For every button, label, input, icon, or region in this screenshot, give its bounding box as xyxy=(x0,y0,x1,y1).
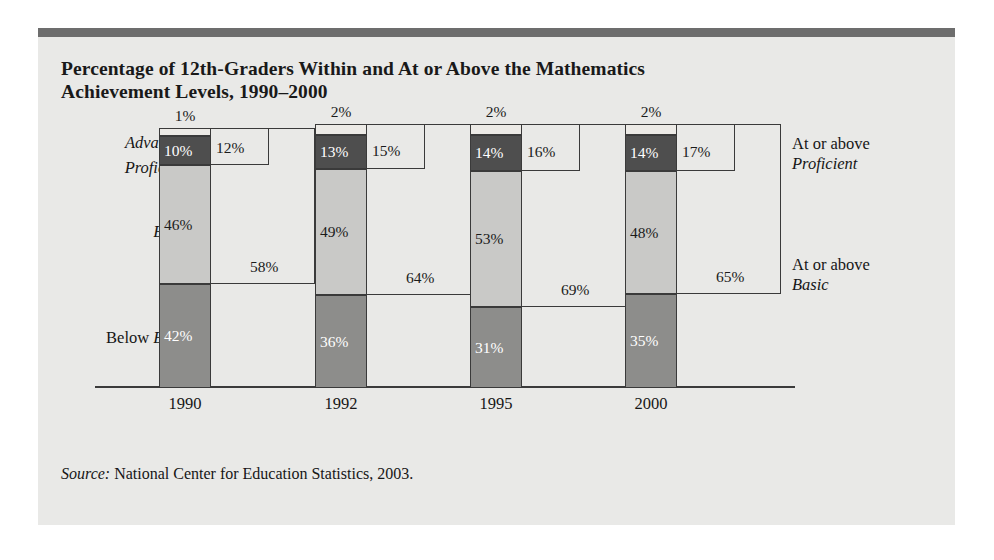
annotation-basic-line2: Basic xyxy=(792,275,870,295)
advanced-value-2000: 2% xyxy=(625,103,677,121)
bar-segment-proficient-1995: 14% xyxy=(470,135,522,171)
bar-value-proficient-1992: 13% xyxy=(316,143,348,161)
bar-segment-advanced-2000 xyxy=(625,124,677,135)
bar-value-basic-1992: 49% xyxy=(316,223,348,241)
bar-segment-advanced-1990 xyxy=(159,128,211,136)
source-text: National Center for Education Statistics… xyxy=(110,465,413,482)
advanced-value-1990: 1% xyxy=(159,107,211,125)
bar-segment-basic-2000: 48% xyxy=(625,171,677,294)
bar-segment-proficient-2000: 14% xyxy=(625,135,677,171)
advanced-value-1995: 2% xyxy=(470,103,522,121)
bar-segment-proficient-1992: 13% xyxy=(315,135,367,169)
bracket-value-basic-2000: 65% xyxy=(716,268,744,286)
bar-segment-below-basic-1992: 36% xyxy=(315,295,367,388)
bracket-basic-1995 xyxy=(522,124,626,307)
bracket-value-basic-1992: 64% xyxy=(406,269,434,287)
category-label-below-prefix: Below xyxy=(106,328,153,347)
bar-segment-basic-1992: 49% xyxy=(315,169,367,295)
bar-segment-basic-1990: 46% xyxy=(159,165,211,284)
figure-stage: Percentage of 12th-Graders Within and At… xyxy=(0,0,994,560)
bar-value-proficient-2000: 14% xyxy=(626,144,658,162)
annotation-at-or-above-proficient: At or above Proficient xyxy=(792,134,870,174)
plot-area: Advanced Proficient Basic Below Basic 1%… xyxy=(0,0,917,497)
bar-segment-below-basic-2000: 35% xyxy=(625,294,677,388)
bar-value-below-basic-2000: 35% xyxy=(626,332,658,350)
bar-value-basic-2000: 48% xyxy=(626,224,658,242)
bar-segment-basic-1995: 53% xyxy=(470,171,522,307)
bracket-value-basic-1995: 69% xyxy=(561,281,589,299)
x-tick-2000: 2000 xyxy=(625,394,677,414)
annotation-proficient-line1: At or above xyxy=(792,134,870,153)
bar-segment-proficient-1990: 10% xyxy=(159,136,211,165)
advanced-value-1992: 2% xyxy=(315,103,367,121)
bar-segment-advanced-1995 xyxy=(470,124,522,135)
bar-value-below-basic-1990: 42% xyxy=(160,327,192,345)
bar-segment-below-basic-1990: 42% xyxy=(159,284,211,388)
bar-value-below-basic-1992: 36% xyxy=(316,333,348,351)
bracket-value-basic-1990: 58% xyxy=(250,258,278,276)
x-tick-1992: 1992 xyxy=(315,394,367,414)
bar-segment-below-basic-1995: 31% xyxy=(470,307,522,388)
source-label: Source: xyxy=(61,465,110,482)
bar-value-basic-1995: 53% xyxy=(471,230,503,248)
bar-value-proficient-1990: 10% xyxy=(160,142,192,160)
annotation-basic-line1: At or above xyxy=(792,255,870,274)
x-tick-1990: 1990 xyxy=(159,394,211,414)
bar-segment-advanced-1992 xyxy=(315,124,367,135)
bar-value-basic-1990: 46% xyxy=(160,216,192,234)
bar-value-below-basic-1995: 31% xyxy=(471,339,503,357)
annotation-proficient-line2: Proficient xyxy=(792,154,870,174)
x-tick-1995: 1995 xyxy=(470,394,522,414)
source-note: Source: National Center for Education St… xyxy=(61,465,413,483)
bar-value-proficient-1995: 14% xyxy=(471,144,503,162)
annotation-at-or-above-basic: At or above Basic xyxy=(792,255,870,295)
